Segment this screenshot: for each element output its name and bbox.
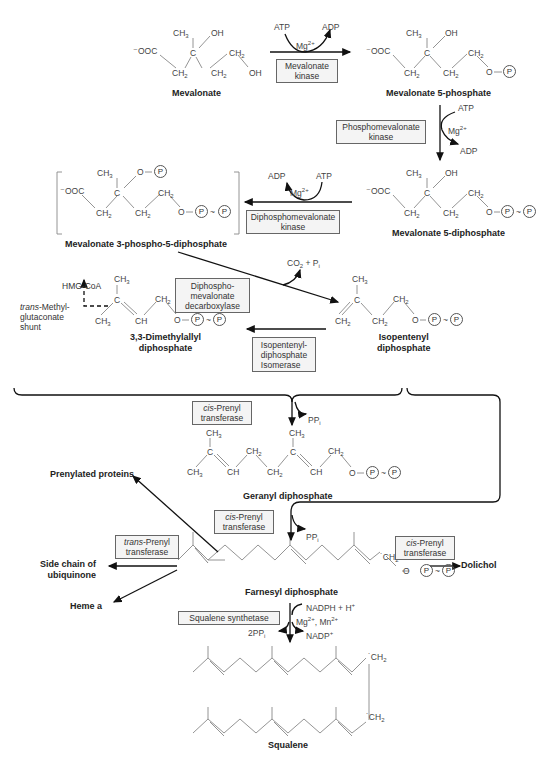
enzyme-diphosphomevalonate-decarboxylase: Diphospho-mevalonatedecarboxylase <box>175 278 250 313</box>
mg-label: Mg2+ <box>296 38 315 51</box>
methylene-label: CH <box>229 48 241 58</box>
methyl-label: CH <box>187 467 199 477</box>
carboxylate-label: OOC <box>371 186 390 196</box>
mg-text: Mg <box>290 188 302 198</box>
enzyme-line: Isopentenyl- <box>261 340 307 350</box>
mevalonate-5-diphosphate-label: Mevalonate 5-diphosphate <box>392 228 505 239</box>
enzyme-italic: cis <box>225 512 235 522</box>
enzyme-phosphomevalonate-kinase: Phosphomevalonatekinase <box>336 120 426 144</box>
squalene-label: Squalene <box>268 740 308 751</box>
tilde-bond: ~ <box>435 566 440 576</box>
ipp-line: diphosphate <box>377 343 431 354</box>
mg-charge: 2+ <box>302 187 309 193</box>
phosphate-circle: P <box>388 466 401 479</box>
adp-label: ADP <box>460 146 477 156</box>
enzyme-line: -Prenyl <box>236 512 263 522</box>
phosphate-circle: P <box>195 205 208 218</box>
methyl-label: CH <box>406 28 418 38</box>
tilde-bond: ~ <box>210 207 215 217</box>
enzyme-cis-prenyl-transferase-1: cis-Prenyltransferase <box>192 401 252 425</box>
phosphate-circle: P <box>450 313 463 326</box>
carbon-label: C <box>290 447 296 457</box>
phosphate-circle: P <box>501 205 514 218</box>
ppi-label: PPi <box>306 532 319 545</box>
dmapp-label: 3,3-Dimethylallyl diphosphate <box>130 332 201 354</box>
co2-text: CO <box>287 258 300 268</box>
mg-text: Mg <box>448 126 460 136</box>
phosphate-circle: P <box>218 205 231 218</box>
hydroxyl-label: OH <box>211 28 224 38</box>
methylene-label: CH <box>172 68 184 78</box>
enzyme-diphosphomevalonate-kinase: Diphosphomevalonatekinase <box>246 210 340 234</box>
shunt-line: -Methyl- <box>39 302 70 312</box>
methylene-label: CH <box>404 68 416 78</box>
methylene-label: CH <box>468 188 480 198</box>
methine-label: CH <box>227 467 239 477</box>
enzyme-line: Phosphomevalonate <box>342 122 420 132</box>
enzyme-line: kinase <box>251 222 336 232</box>
dmapp-line: 3,3-Dimethylallyl <box>130 332 201 343</box>
methyl-label: CH <box>206 428 218 438</box>
phosphate-circle: P <box>523 205 536 218</box>
side-line: Side chain of <box>40 559 96 570</box>
methylene-label: CH <box>383 552 395 562</box>
farnesyl-diphosphate-label: Farnesyl diphosphate <box>245 587 338 598</box>
ppi-text: PP <box>306 532 317 542</box>
shunt-line: shunt <box>20 322 70 332</box>
methyl-label: CH <box>352 274 364 284</box>
dolichol-label: Dolichol <box>461 560 497 571</box>
carbon-label: C <box>424 188 430 198</box>
methylene-label: CH <box>211 68 223 78</box>
shunt-label: trans-Methyl- glutaconate shunt <box>20 302 70 332</box>
methyl-label: CH <box>95 316 107 326</box>
ubiquinone-side-chain-label: Side chain of ubiquinone <box>40 559 96 581</box>
phosphate-circle: P <box>503 65 516 78</box>
nadp-label: NADP+ <box>306 628 333 641</box>
oxygen-label: O <box>174 315 181 325</box>
enzyme-line: transferase <box>404 548 447 558</box>
carboxylate-label: OOC <box>138 46 157 56</box>
mevalonate-pathway-diagram: ⁻OOC CH3 OH C CH2 CH2 CH2 OH Mevalonate … <box>0 0 538 761</box>
mevalonate-5-phosphate-label: Mevalonate 5-phosphate <box>386 88 491 99</box>
enzyme-squalene-synthetase: Squalene synthetase <box>178 611 280 625</box>
tilde-bond: ~ <box>206 315 211 325</box>
mg-mn-label: Mg2+, Mn2+ <box>296 614 338 627</box>
methylene-label: CH <box>443 68 455 78</box>
shunt-line: glutaconate <box>20 312 70 322</box>
enzyme-line: Mevalonate <box>285 61 329 71</box>
carbon-label: C <box>424 48 430 58</box>
enzyme-line: -Prenyl <box>214 403 241 413</box>
methylene-label: CH <box>393 294 405 304</box>
methine-label: CH <box>310 467 322 477</box>
enzyme-line: Diphosphomevalonate <box>251 212 336 222</box>
phosphate-circle: P <box>154 165 167 178</box>
enzyme-line: mevalonate <box>185 291 240 301</box>
oxygen-label: O <box>349 468 356 478</box>
enzyme-line: kinase <box>285 71 329 81</box>
mg-label: Mg2+ <box>290 185 309 198</box>
phosphate-circle: P <box>191 313 204 326</box>
ppi-label: PPi <box>308 415 321 428</box>
phosphate-circle: P <box>420 564 433 577</box>
two-ppi-text: 2PP <box>248 628 264 638</box>
mn-text: , Mn <box>315 617 332 627</box>
carbon-label: C <box>190 48 196 58</box>
methylene-label: CH <box>135 208 147 218</box>
methyl-label: CH <box>173 28 185 38</box>
nadph-label: NADPH + H+ <box>306 600 355 613</box>
adp-label: ADP <box>322 22 339 32</box>
oxygen-label: O <box>178 207 185 217</box>
methylene-label: CH <box>335 316 347 326</box>
hydroxyl-label: OH <box>249 68 262 78</box>
enzyme-cis-prenyl-transferase-2: cis-Prenyltransferase <box>214 510 274 534</box>
hydroxyl-label: OH <box>445 168 458 178</box>
ppi-text: PP <box>308 415 319 425</box>
two-ppi-label: 2PPi <box>248 628 265 641</box>
enzyme-trans-prenyl-transferase: trans-Prenyltransferase <box>115 535 179 559</box>
nadp-text: NADP <box>306 631 330 641</box>
atp-label: ATP <box>316 171 332 181</box>
methyl-label: CH <box>114 274 126 284</box>
mg-charge: 2+ <box>460 125 467 131</box>
tilde-bond: ~ <box>443 315 448 325</box>
shunt-italic: trans <box>20 302 39 312</box>
